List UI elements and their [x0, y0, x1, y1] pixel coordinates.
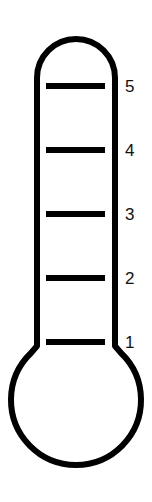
thermometer-graphic: 54321 — [0, 0, 152, 502]
tick-mark-1 — [46, 339, 105, 345]
tick-mark-5 — [46, 83, 105, 89]
tick-label-3: 3 — [125, 205, 134, 224]
tick-mark-4 — [46, 147, 105, 153]
tick-label-2: 2 — [125, 269, 134, 288]
tick-label-5: 5 — [125, 77, 134, 96]
tick-mark-3 — [46, 211, 105, 217]
tick-mark-2 — [46, 275, 105, 281]
thermometer-outline — [11, 39, 141, 465]
thermometer-diagram: 54321 — [0, 0, 152, 502]
tick-label-4: 4 — [125, 141, 134, 160]
tick-label-1: 1 — [125, 333, 134, 352]
